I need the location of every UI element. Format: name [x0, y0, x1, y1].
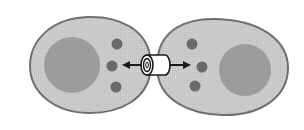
gap-junction-diagram	[0, 0, 304, 130]
left-vesicle-2	[107, 61, 118, 72]
left-vesicle-3	[111, 82, 122, 93]
right-nucleus	[219, 44, 271, 96]
right-vesicle-3	[190, 81, 201, 92]
right-vesicle-1	[187, 39, 198, 50]
left-vesicle-1	[112, 39, 123, 50]
right-cell	[158, 19, 288, 115]
left-nucleus	[44, 37, 100, 93]
channel-pore	[146, 62, 149, 68]
gap-junction-channel	[141, 55, 170, 75]
right-vesicle-2	[197, 62, 208, 73]
